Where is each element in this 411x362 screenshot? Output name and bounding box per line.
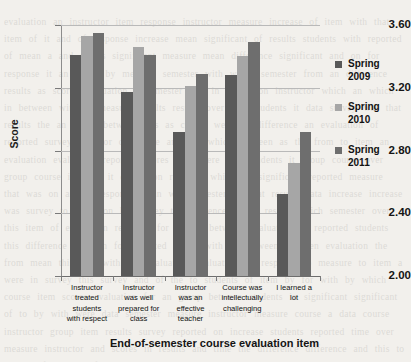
category-label-line: effective	[165, 304, 217, 314]
category-label-line: Course was	[216, 283, 268, 293]
category-label-line: class	[113, 314, 165, 324]
legend-item[interactable]: Spring 2010	[335, 101, 411, 126]
x-axis-category-label: Course wasintellectuallychallenging	[216, 283, 268, 314]
bar[interactable]	[300, 132, 312, 276]
bar[interactable]	[133, 47, 145, 276]
bar[interactable]	[288, 163, 300, 276]
legend-label: Spring 2010	[348, 101, 380, 126]
bar[interactable]	[237, 56, 249, 276]
category-label-line: I learned a	[268, 283, 320, 293]
bar[interactable]	[248, 42, 260, 276]
category-label-line: lot	[268, 293, 320, 303]
bar-group	[61, 25, 113, 276]
legend-swatch-icon	[335, 61, 342, 68]
y-axis-title: Score	[8, 104, 20, 164]
bar[interactable]	[121, 92, 133, 276]
x-axis-tick-mark	[216, 276, 217, 281]
legend-swatch-icon	[335, 104, 342, 111]
x-axis-tick-mark	[268, 276, 269, 281]
category-label-line: was an	[165, 293, 217, 303]
bar-chart: Score 2.002.402.803.203.60 Instructortre…	[0, 0, 411, 362]
bar[interactable]	[173, 132, 185, 276]
x-axis-tick-mark	[320, 276, 321, 281]
bar-group	[268, 25, 320, 276]
plot-area	[61, 25, 320, 276]
y-axis-tick-label: 2.00	[367, 269, 411, 281]
bar[interactable]	[225, 75, 237, 276]
legend-label: Spring 2009	[348, 58, 380, 83]
bar[interactable]	[81, 36, 93, 276]
bar-group	[165, 25, 217, 276]
x-axis-category-label: Instructorwas wellprepared forclass	[113, 283, 165, 325]
x-axis-tick-mark	[165, 276, 166, 281]
x-axis-category-label: Instructorwas aneffectiveteacher	[165, 283, 217, 325]
x-axis-tick-mark	[61, 276, 62, 281]
y-axis-tick-label: 3.60	[367, 18, 411, 30]
category-label-line: was well	[113, 293, 165, 303]
category-label-line: intellectually	[216, 293, 268, 303]
y-axis-tick-label: 2.40	[367, 206, 411, 218]
category-label-line: Instructor	[165, 283, 217, 293]
legend-label: Spring 2011	[348, 144, 380, 169]
bar[interactable]	[196, 74, 208, 276]
x-axis-title: End-of-semester course evaluation item	[0, 337, 411, 349]
legend-item[interactable]: Spring 2011	[335, 144, 411, 169]
bar[interactable]	[144, 55, 156, 276]
category-label-line: Instructor	[61, 283, 113, 293]
legend-item[interactable]: Spring 2009	[335, 58, 411, 83]
bar[interactable]	[277, 194, 289, 276]
bar-group	[113, 25, 165, 276]
legend: Spring 2009Spring 2010Spring 2011	[335, 58, 411, 187]
bar-group	[216, 25, 268, 276]
category-label-line: Instructor	[113, 283, 165, 293]
x-axis-category-label: Instructortreatedstudentswith respect	[61, 283, 113, 325]
legend-swatch-icon	[335, 147, 342, 154]
category-label-line: with respect	[61, 314, 113, 324]
bar[interactable]	[70, 55, 82, 276]
x-axis-tick-mark	[113, 276, 114, 281]
category-label-line: treated	[61, 293, 113, 303]
category-label-line: students	[61, 304, 113, 314]
x-axis-line	[61, 276, 321, 277]
category-label-line: prepared for	[113, 304, 165, 314]
bar[interactable]	[93, 33, 105, 276]
bar[interactable]	[185, 86, 197, 276]
category-label-line: teacher	[165, 314, 217, 324]
x-axis-category-label: I learned alot	[268, 283, 320, 304]
category-label-line: challenging	[216, 304, 268, 314]
